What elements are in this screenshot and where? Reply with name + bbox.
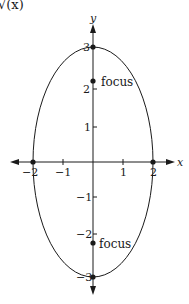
- focus-top-dot: [90, 78, 95, 83]
- co-vertex-right-dot: [150, 159, 155, 164]
- top-text-fragment: √(x): [0, 0, 24, 12]
- ellipse-diagram: √(x) x −2 −1 1 2 y 3 2 1 −1 −2 −3 foc: [0, 0, 189, 304]
- x-tick-label: −1: [55, 166, 71, 179]
- y-tick-label: −1: [76, 191, 92, 204]
- y-axis: y 3 2 1 −1 −2 −3: [76, 12, 97, 295]
- co-vertex-left-dot: [30, 159, 35, 164]
- y-tick-label: 2: [83, 83, 90, 96]
- y-tick-label: −2: [76, 228, 92, 241]
- arrow-right-icon: [166, 159, 175, 165]
- arrow-up-icon: [90, 24, 96, 33]
- vertex-bottom-dot: [90, 274, 95, 279]
- x-tick-label: −2: [22, 166, 38, 179]
- x-axis: x −2 −1 1 2: [10, 156, 184, 179]
- arrow-down-icon: [90, 286, 96, 295]
- y-axis-label: y: [89, 12, 97, 25]
- x-tick-label: 2: [150, 166, 157, 179]
- focus-bottom-dot: [90, 240, 95, 245]
- y-tick-label: 1: [84, 121, 91, 134]
- x-axis-label: x: [177, 156, 184, 169]
- focus-top-label: focus: [101, 75, 133, 89]
- y-tick-label: −3: [76, 271, 92, 284]
- arrow-left-icon: [10, 159, 19, 165]
- vertex-top-dot: [90, 44, 95, 49]
- x-tick-label: 1: [120, 166, 127, 179]
- focus-bottom-label: focus: [99, 237, 131, 251]
